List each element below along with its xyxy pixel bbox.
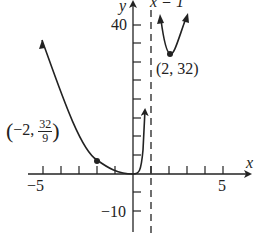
tick-label-40: 40 [111, 17, 127, 33]
tick-label-neg5: −5 [27, 178, 44, 194]
fraction: 329 [38, 118, 52, 144]
asymptote-label: x = 1 [150, 0, 184, 10]
curve-right-branch [161, 18, 186, 54]
arrowhead-icon [157, 14, 164, 24]
x-axis-label: x [246, 155, 253, 171]
point-right [167, 51, 173, 57]
y-ticks [133, 25, 141, 211]
point-left-label: (−2, 329) [6, 118, 60, 144]
arrowhead-icon [182, 13, 189, 23]
curve-left-branch [42, 40, 145, 174]
point-right-label: (2, 32) [156, 61, 199, 77]
tick-label-5: 5 [218, 178, 226, 194]
point-left [94, 158, 100, 164]
point-left-x: −2, [13, 121, 34, 138]
y-axis-label: y [119, 0, 126, 14]
tick-label-neg10: −10 [101, 204, 126, 220]
